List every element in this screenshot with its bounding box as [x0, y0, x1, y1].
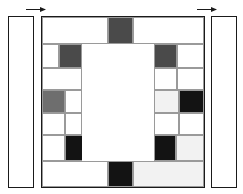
grid-cell-r6c1: [108, 161, 133, 187]
grid-cell-r5c4: [176, 135, 204, 161]
grid-cell-r3c3: [154, 90, 179, 113]
grid-cell-r1c1: [59, 44, 82, 68]
grid-cell-r2c0: [42, 68, 82, 90]
grid-cell-r5c0: [42, 135, 65, 161]
grid-cell-r6c2: [133, 161, 204, 187]
grid-cell-r4c0: [42, 113, 65, 135]
grid-cell-r6c0: [42, 161, 108, 187]
grid-cell-r1c4: [177, 44, 204, 68]
grid-cell-r3c0: [42, 90, 65, 113]
grid-cell-r4c3: [154, 113, 179, 135]
grid-cell-r1c0: [42, 44, 59, 68]
grid-cell-r0c0: [42, 17, 108, 44]
grid-cell-r4c4: [179, 113, 204, 135]
grid-cell-r5c3: [154, 135, 176, 161]
right-side-panel: [211, 16, 237, 188]
right-arrow-marker: [197, 6, 217, 13]
figure-canvas: [0, 0, 243, 194]
grid-cell-r0c1: [108, 17, 133, 44]
grid-cell-center-void: [82, 44, 154, 161]
grid-cell-r3c1: [65, 90, 82, 113]
grid-cell-r4c1: [65, 113, 82, 135]
left-arrow-marker: [26, 6, 46, 13]
grid-cell-r1c3: [154, 44, 177, 68]
grid-cell-r2c3: [177, 68, 204, 90]
left-side-panel: [8, 16, 34, 188]
grid-cell-r0c2: [133, 17, 204, 44]
grid-cell-r3c4: [179, 90, 204, 113]
grid-cell-r2c2: [154, 68, 177, 90]
